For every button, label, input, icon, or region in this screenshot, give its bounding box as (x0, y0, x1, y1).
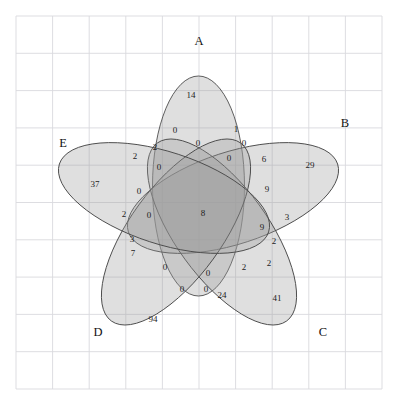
region-count-b: 29 (306, 160, 316, 170)
set-label-b: B (341, 116, 349, 130)
region-count-de: 7 (131, 248, 136, 258)
region-count-c: 41 (273, 293, 282, 303)
region-count-be: 6 (262, 154, 267, 164)
region-count-ace: 2 (122, 209, 127, 219)
region-count-ae: 2 (133, 151, 138, 161)
region-count-abce: 0 (180, 284, 185, 294)
region-count-ac: 0 (196, 138, 201, 148)
region-count-d: 94 (149, 314, 159, 324)
region-count-bcd: 9 (260, 222, 265, 232)
set-label-a: A (194, 34, 203, 48)
region-count-acd: 3 (130, 234, 135, 244)
region-count-a: 14 (187, 90, 197, 100)
region-count-bcde: 2 (242, 262, 247, 272)
region-count-ade: 0 (137, 186, 142, 196)
region-count-cd: 24 (218, 290, 228, 300)
venn-diagram-canvas: 1429419437213247000602002399220000028 AB… (0, 0, 397, 408)
region-count-bd: 0 (227, 153, 232, 163)
region-count-e: 37 (91, 179, 101, 189)
region-count-ad: 0 (173, 125, 178, 135)
set-label-d: D (93, 325, 102, 339)
region-count-abd: 0 (157, 162, 162, 172)
region-count-bde: 2 (272, 236, 277, 246)
set-label-c: C (319, 325, 327, 339)
venn-diagram-svg: 1429419437213247000602002399220000028 AB… (0, 0, 397, 408)
region-count-abcde: 8 (201, 208, 206, 218)
region-count-bc: 3 (285, 212, 290, 222)
region-count-cde: 2 (267, 258, 272, 268)
region-count-abcd: 0 (163, 262, 168, 272)
region-count-bce: 9 (265, 184, 270, 194)
region-count-abc: 0 (147, 210, 152, 220)
region-count-ce: 0 (242, 138, 247, 148)
region-count-ab: 1 (234, 124, 239, 134)
set-label-e: E (59, 136, 67, 150)
region-count-abe: 2 (153, 142, 158, 152)
region-count-acde: 0 (206, 268, 211, 278)
region-count-abde: 0 (204, 284, 209, 294)
